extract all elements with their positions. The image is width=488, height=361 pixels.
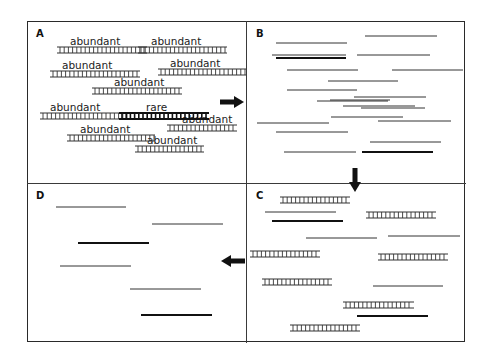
diagram-drawing [0,0,488,361]
double-strand [50,71,140,77]
double-strand [366,212,436,218]
arrow-body-a-to-b [220,100,234,105]
double-strand [250,251,320,257]
double-strand [378,254,448,260]
arrow-body-b-to-c [353,168,358,182]
double-strand [40,113,130,119]
double-strand [290,325,360,331]
double-strand [167,125,237,131]
double-strand [138,47,227,53]
double-strand [92,88,182,94]
double-strand [158,69,246,75]
rare-double-strand [119,113,209,119]
double-strand [343,302,414,308]
double-strand [135,146,204,152]
arrow-left-icon [221,255,231,267]
arrow-body-c-to-d [231,259,245,264]
double-strand [280,197,350,203]
double-strand [262,279,332,285]
double-strand [57,47,147,53]
arrow-right-icon [234,96,244,108]
double-strand [67,135,155,141]
arrow-down-icon [349,182,361,192]
normalization-diagram: A B C D abundantabundantabundantabundant… [0,0,488,361]
